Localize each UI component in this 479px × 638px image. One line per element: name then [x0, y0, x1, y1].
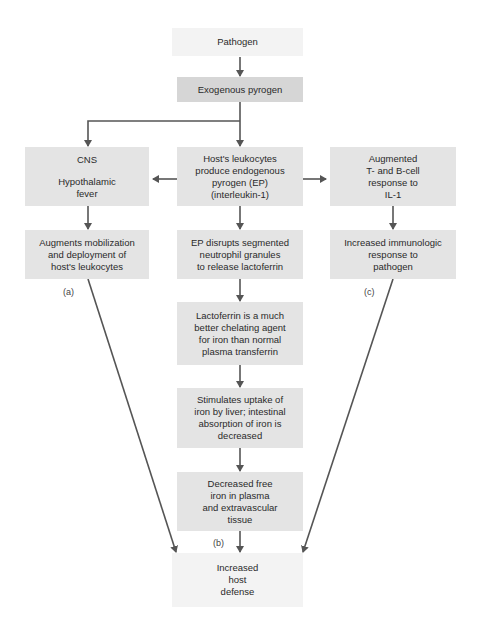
arrow-c-to-defense	[303, 279, 393, 552]
text-line: Lactoferrin is a much	[196, 310, 284, 322]
node-stimulates-uptake: Stimulates uptake of iron by liver; inte…	[177, 388, 303, 448]
text-line: iron by liver; intestinal	[194, 406, 285, 418]
node-lactoferrin-chelating: Lactoferrin is a much better chelating a…	[177, 302, 303, 365]
node-augmented-tb-response: Augmented T- and B-cell response to IL-1	[330, 147, 456, 206]
text-line: CNS	[77, 154, 97, 166]
text-line: absorption of iron is	[199, 418, 282, 430]
label-c: (c)	[364, 287, 375, 297]
text-line: and deployment of	[48, 249, 126, 261]
text-line: better chelating agent	[194, 322, 285, 334]
text-line: Augmented	[369, 153, 418, 165]
node-exogenous-pyrogen-text: Exogenous pyrogen	[198, 84, 283, 96]
text-line: decreased	[218, 430, 262, 442]
node-exogenous-pyrogen: Exogenous pyrogen	[177, 77, 303, 102]
text-line: host	[229, 574, 247, 586]
text-line: neutrophil granules	[200, 249, 281, 261]
text-line: response to	[368, 177, 418, 189]
label-a: (a)	[63, 287, 74, 297]
text-line: Decreased free	[208, 478, 273, 490]
text-line: pathogen	[373, 261, 413, 273]
node-increased-host-defense: Increased host defense	[172, 553, 303, 607]
text-line: tissue	[228, 514, 253, 526]
text-line: T- and B-cell	[366, 165, 419, 177]
text-line: IL-1	[385, 189, 401, 201]
text-line: pyrogen (EP)	[212, 177, 268, 189]
text-line: Increased	[217, 562, 259, 574]
text-line: Increased immunologic	[344, 237, 442, 249]
text-line: Stimulates uptake of	[197, 394, 283, 406]
text-line: and extravascular	[203, 502, 278, 514]
text-line: fever	[76, 188, 97, 200]
text-line: to release lactoferrin	[197, 261, 283, 273]
node-ep-disrupts-granules: EP disrupts segmented neutrophil granule…	[177, 230, 303, 279]
arrow-branch-to-cns	[88, 121, 240, 146]
node-pathogen-text: Pathogen	[217, 36, 258, 48]
node-pathogen: Pathogen	[172, 28, 303, 56]
node-leukocytes-produce-ep: Host's leukocytes produce endogenous pyr…	[177, 147, 303, 206]
text-line: iron in plasma	[210, 490, 269, 502]
node-increased-immunologic: Increased immunologic response to pathog…	[330, 230, 456, 279]
text-line: Host's leukocytes	[203, 153, 277, 165]
text-line: Augments mobilization	[39, 237, 135, 249]
node-decreased-free-iron: Decreased free iron in plasma and extrav…	[177, 472, 303, 531]
text-line: host's leukocytes	[51, 261, 123, 273]
node-cns-hypothalamic-fever: CNS Hypothalamic fever	[25, 147, 149, 206]
text-line: defense	[221, 586, 255, 598]
node-augments-mobilization: Augments mobilization and deployment of …	[25, 230, 149, 279]
label-b: (b)	[213, 538, 224, 548]
text-line: response to	[368, 249, 418, 261]
text-line: (interleukin-1)	[211, 189, 269, 201]
text-line: Hypothalamic	[58, 176, 116, 188]
arrow-a-to-defense	[88, 279, 176, 552]
text-line: for iron than normal	[199, 334, 281, 346]
text-line: produce endogenous	[195, 165, 284, 177]
text-line: EP disrupts segmented	[191, 237, 289, 249]
text-line: plasma transferrin	[202, 346, 278, 358]
